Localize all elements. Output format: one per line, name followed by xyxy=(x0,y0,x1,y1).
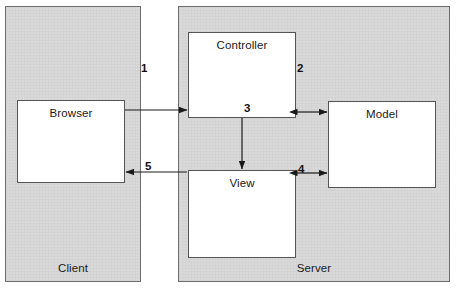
edge-label-5: 5 xyxy=(145,160,151,172)
edge-label-3: 3 xyxy=(244,102,250,114)
node-label-model: Model xyxy=(329,108,435,120)
zone-label-server: Server xyxy=(178,262,450,274)
diagram-canvas: Client Server Browser Controller View Mo… xyxy=(0,0,456,290)
node-browser: Browser xyxy=(17,100,125,183)
node-view: View xyxy=(188,170,296,258)
edge-label-2: 2 xyxy=(297,62,303,74)
node-model: Model xyxy=(328,101,436,188)
node-label-controller: Controller xyxy=(189,39,295,51)
edge-label-4: 4 xyxy=(298,163,304,175)
node-label-browser: Browser xyxy=(18,107,124,119)
zone-label-client: Client xyxy=(5,262,141,274)
node-label-view: View xyxy=(189,177,295,189)
edge-label-1: 1 xyxy=(141,62,147,74)
node-controller: Controller xyxy=(188,32,296,118)
